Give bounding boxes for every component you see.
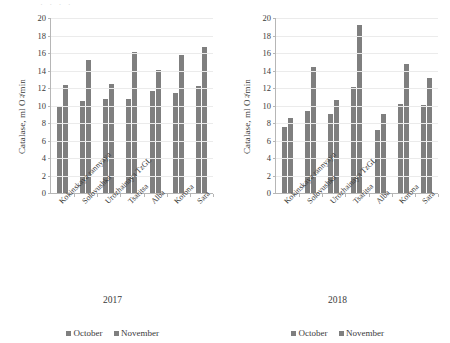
catalase-bar-chart-figure: · · · · Catalase, ml O2/min 024681012141… [0, 0, 450, 343]
gridline [51, 53, 213, 54]
chart-panel-2017: Catalase, ml O2/min 02468101214161820 Ko… [0, 10, 225, 343]
gridline [51, 71, 213, 72]
y-axis-tick [48, 141, 51, 142]
y-tick-label: 8 [42, 119, 46, 128]
y-axis-tick [273, 193, 276, 194]
y-tick-label: 0 [42, 189, 46, 198]
y-axis-tick [273, 53, 276, 54]
plot-area-2017 [50, 18, 213, 194]
y-axis-title-2017: Catalase, ml O2/min [14, 32, 30, 202]
panel-caption-2017: 2017 [0, 295, 225, 305]
y-tick-label: 2 [267, 171, 271, 180]
gridline [51, 123, 213, 124]
y-tick-label: 18 [263, 31, 272, 40]
legend-swatch-icon-november-2018 [339, 331, 344, 336]
y-tick-label: 12 [38, 84, 47, 93]
y-axis-tick [273, 36, 276, 37]
y-tick-label: 10 [38, 101, 47, 110]
legend-item-october-2017: October [66, 328, 103, 338]
y-axis-title-prefix-2018: Catalase, ml O [242, 100, 252, 155]
plot-area-2018 [275, 18, 438, 194]
legend-2018: October November [225, 328, 450, 338]
gridline [51, 106, 213, 107]
y-axis-tick-labels-2017: 02468101214161820 [30, 18, 46, 193]
gridline [276, 106, 438, 107]
y-tick-label: 12 [263, 84, 272, 93]
gridline [51, 141, 213, 142]
gridline [276, 53, 438, 54]
y-axis-tick [48, 106, 51, 107]
x-axis-category-labels-2018: Kokinskaya rannyayaSolovushkaUrozhainaya… [275, 198, 450, 278]
plot-wrap-2018: 02468101214161820 [255, 18, 441, 203]
bar [398, 104, 403, 193]
bar [282, 127, 287, 193]
y-tick-label: 14 [38, 66, 47, 75]
y-axis-tick [48, 71, 51, 72]
legend-item-november-2017: November [114, 328, 160, 338]
y-axis-title-subscript-2018: 2 [243, 94, 250, 97]
gridline [276, 123, 438, 124]
x-axis-tick [190, 194, 191, 197]
gridline [51, 158, 213, 159]
x-axis-tick [415, 194, 416, 197]
y-axis-tick [273, 106, 276, 107]
plot-wrap-2017: 02468101214161820 [30, 18, 216, 203]
y-tick-label: 16 [38, 49, 47, 58]
y-tick-label: 10 [263, 101, 272, 110]
bar [381, 114, 386, 193]
x-axis-tick [438, 194, 439, 197]
y-tick-label: 20 [263, 14, 272, 23]
y-tick-label: 4 [267, 154, 271, 163]
gridline [276, 36, 438, 37]
cropped-top-text: · · · · [40, 0, 240, 8]
y-tick-label: 14 [263, 66, 272, 75]
y-tick-label: 18 [38, 31, 47, 40]
x-axis-tick [213, 194, 214, 197]
legend-label-october-2017: October [74, 328, 103, 338]
gridline [51, 18, 213, 19]
y-axis-tick [273, 71, 276, 72]
gridline [51, 88, 213, 89]
y-axis-tick [48, 36, 51, 37]
y-axis-tick [48, 123, 51, 124]
y-axis-tick [48, 193, 51, 194]
y-axis-tick [273, 176, 276, 177]
y-axis-title-prefix-2017: Catalase, ml O [17, 100, 27, 155]
gridline [276, 18, 438, 19]
gridline [276, 158, 438, 159]
y-axis-tick [273, 158, 276, 159]
legend-label-october-2018: October [299, 328, 328, 338]
legend-item-october-2018: October [291, 328, 328, 338]
legend-2017: October November [0, 328, 225, 338]
bar [57, 107, 62, 193]
chart-panels-container: Catalase, ml O2/min 02468101214161820 Ko… [0, 10, 450, 343]
y-axis-tick [48, 88, 51, 89]
y-tick-label: 16 [263, 49, 272, 58]
panel-caption-2018: 2018 [225, 295, 450, 305]
y-tick-label: 8 [267, 119, 271, 128]
legend-label-november-2018: November [346, 328, 384, 338]
gridline [51, 36, 213, 37]
y-axis-tick [273, 88, 276, 89]
chart-panel-2018: Catalase, ml O2/min 02468101214161820 Ko… [225, 10, 450, 343]
x-axis-category-labels-2017: Kokinskaya rannyayaSolovushkaUrozhainaya… [50, 198, 230, 278]
legend-swatch-icon-october-2018 [291, 331, 296, 336]
y-tick-label: 6 [267, 136, 271, 145]
y-axis-title-2018: Catalase, ml O2/min [239, 32, 255, 202]
y-axis-title-subscript-2017: 2 [18, 94, 25, 97]
legend-label-november-2017: November [121, 328, 159, 338]
gridline [276, 88, 438, 89]
bar [404, 64, 409, 194]
bar [173, 93, 178, 193]
y-axis-tick [273, 141, 276, 142]
y-axis-tick [273, 18, 276, 19]
gridline [276, 141, 438, 142]
y-tick-label: 4 [42, 154, 46, 163]
bar [421, 105, 426, 193]
y-axis-tick [48, 176, 51, 177]
bar [288, 118, 293, 193]
bar [202, 47, 207, 193]
y-tick-label: 20 [38, 14, 47, 23]
y-tick-label: 6 [42, 136, 46, 145]
legend-item-november-2018: November [339, 328, 385, 338]
